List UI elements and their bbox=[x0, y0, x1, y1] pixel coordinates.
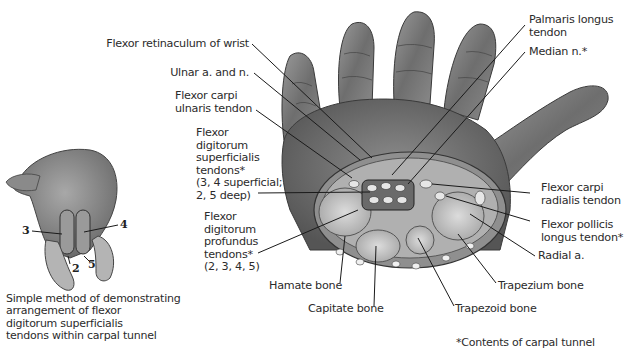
label-flexor-retinaculum: Flexor retinaculum of wrist bbox=[106, 38, 249, 51]
label-line: Flexor bbox=[204, 211, 260, 224]
label-fds-tendons: Flexor digitorum superficialis tendons* … bbox=[196, 127, 282, 203]
label-radial-a: Radial a. bbox=[538, 250, 584, 263]
label-line: Median n.* bbox=[529, 45, 587, 58]
inset-hand bbox=[6, 149, 118, 290]
label-line: radialis tendon bbox=[541, 195, 621, 208]
label-median-n: Median n.* bbox=[529, 46, 587, 59]
label-trapezium: Trapezium bone bbox=[498, 280, 584, 293]
label-line: ulnaris tendon bbox=[175, 103, 252, 116]
caption-line: arrangement of flexor bbox=[6, 305, 180, 317]
label-line: Flexor carpi bbox=[175, 90, 252, 103]
label-line: Palmaris longus bbox=[529, 14, 613, 27]
label-fcu-tendon: Flexor carpi ulnaris tendon bbox=[175, 90, 252, 115]
caption-line: tendons within carpal tunnel bbox=[6, 330, 180, 342]
inset-caption: Simple method of demonstrating arrangeme… bbox=[6, 293, 180, 342]
label-line: 2, 5 deep) bbox=[196, 190, 282, 203]
label-ulnar-a-n: Ulnar a. and n. bbox=[170, 67, 249, 80]
label-trapezoid: Trapezoid bone bbox=[455, 303, 537, 316]
label-line: Flexor retinaculum of wrist bbox=[106, 37, 249, 50]
finger-number-4: 4 bbox=[120, 218, 128, 231]
label-line: Flexor pollicis bbox=[541, 219, 623, 232]
label-line: longus tendon* bbox=[541, 232, 623, 245]
label-fcr-tendon: Flexor carpi radialis tendon bbox=[541, 182, 621, 207]
finger-number-5: 5 bbox=[88, 258, 96, 271]
label-hamate: Hamate bone bbox=[269, 280, 342, 293]
label-line: Flexor carpi bbox=[541, 182, 621, 195]
label-line: tendon bbox=[529, 27, 613, 40]
carpal-tunnel-cross-section bbox=[314, 152, 506, 269]
label-fpl-tendon: Flexor pollicis longus tendon* bbox=[541, 219, 623, 244]
label-line: Flexor bbox=[196, 127, 282, 140]
label-line: Ulnar a. and n. bbox=[170, 66, 249, 79]
finger-number-3: 3 bbox=[22, 224, 30, 237]
label-fdp-tendons: Flexor digitorum profundus tendons* (2, … bbox=[204, 211, 260, 274]
label-palmaris-longus: Palmaris longus tendon bbox=[529, 14, 613, 39]
label-line: profundus bbox=[204, 236, 260, 249]
finger-number-2: 2 bbox=[72, 262, 80, 275]
label-capitate: Capitate bone bbox=[308, 303, 384, 316]
label-line: superficialis bbox=[196, 152, 282, 165]
footnote: *Contents of carpal tunnel bbox=[456, 336, 595, 349]
label-line: Radial a. bbox=[538, 249, 584, 262]
label-line: (2, 3, 4, 5) bbox=[204, 261, 260, 274]
